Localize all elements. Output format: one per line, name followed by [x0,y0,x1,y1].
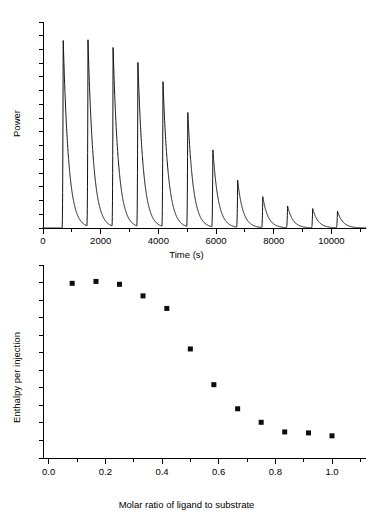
data-point-marker [117,282,122,287]
data-point-marker [211,382,216,387]
bottom-y-axis-label: Enthalpy per injection [11,332,22,423]
data-point-marker [306,430,311,435]
data-point-marker [164,306,169,311]
bottom-x-axis-label: Molar ratio of ligand to substrate [119,499,255,510]
data-point-marker [70,281,75,286]
power-vs-time-plot: 0200040006000800010000 [0,0,373,262]
bottom-y-axis-label-wrap: Enthalpy per injection [9,300,23,455]
itc-figure: 0200040006000800010000 Power Time (s) 0.… [0,0,373,518]
bottom-x-tick-label: 0.0 [42,466,55,477]
data-point-marker [259,420,264,425]
bottom-x-tick-label: 0.4 [155,466,168,477]
top-y-axis-label-wrap: Power [9,78,23,168]
data-point-marker [93,279,98,284]
data-point-marker [235,406,240,411]
data-point-marker [330,433,335,438]
bottom-x-axis-label-wrap: Molar ratio of ligand to substrate [0,494,373,512]
data-point-marker [282,429,287,434]
power-trace [43,40,366,228]
power-vs-time-panel: 0200040006000800010000 Power Time (s) [0,0,373,262]
bottom-x-tick-label: 0.6 [212,466,225,477]
data-point-marker [188,346,193,351]
top-y-axis-label: Power [11,110,22,137]
bottom-x-tick-label: 0.8 [269,466,282,477]
data-point-marker [141,293,146,298]
enthalpy-vs-molar-ratio-panel: 0.00.20.40.60.81.0 Enthalpy per injectio… [0,255,373,518]
bottom-x-tick-label: 1.0 [325,466,338,477]
bottom-x-tick-label: 0.2 [99,466,112,477]
enthalpy-vs-molar-ratio-plot: 0.00.20.40.60.81.0 [0,255,373,495]
